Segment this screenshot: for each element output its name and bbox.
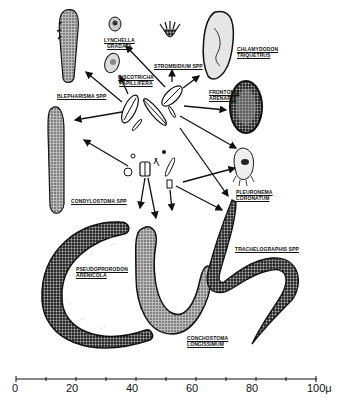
label-frontonia: FRONTONIA ARENARIA [209,89,240,101]
label-line: LONGISSIMUM [187,341,224,347]
label-discotricha: DISCOTRICHA PAPILLIFERA [118,74,154,86]
label-conchostoma: CONCHOSTOMA LONGISSIMUM [187,335,228,347]
label-pleuronema: PLEURONEMA CORONATUM [236,189,273,201]
small-organisms-cluster [124,150,176,188]
blepharisma-organism [57,10,78,83]
strombidium-organism [160,21,180,37]
discotricha-organism [102,51,122,75]
label-line: ARENARIA [209,95,236,101]
scale-tick-0: 0 [12,382,18,394]
scale-tick-value: 100 [307,382,325,394]
diagram-canvas [0,0,346,408]
label-line: GRADATA [107,43,132,49]
lynchella-organism [109,17,121,31]
scale-bar [16,376,317,382]
label-trachelographis: TRACHELOGRAPHIS SPP [235,246,299,252]
label-line: CORONATUM [236,195,270,201]
label-pseudoprorodon: PSEUDOPRORODON ARENICOLA [76,266,128,278]
label-strombidium: STROMBIDIUM SPP [154,63,203,69]
label-line: ARENICOLA [76,272,107,278]
pleuronema-organism [233,148,254,186]
scale-tick-60: 60 [186,382,198,394]
chlamydodon-organism [203,11,233,79]
trachelographis-organism [207,200,298,344]
scale-tick-100: 100μ [307,382,332,394]
label-line: PAPILLIFERA [119,80,153,86]
diatom-cluster [118,83,185,132]
scale-tick-40: 40 [126,382,138,394]
conchostoma-organism [136,227,212,334]
label-blepharisma: BLEPHARISMA SPP [57,93,106,99]
scale-tick-20: 20 [66,382,78,394]
scale-tick-80: 80 [246,382,258,394]
label-condylostoma: CONDYLOSTOMA SPP [71,198,127,204]
label-chlamydodon: CHLAMYDODON TRIQUETRUS [237,46,278,58]
condylostoma-organism [48,107,64,213]
label-lynchella: LYNCHELLA GRADATA [104,37,135,49]
label-line: TRIQUETRUS [237,52,271,58]
scale-unit: μ [325,382,331,394]
